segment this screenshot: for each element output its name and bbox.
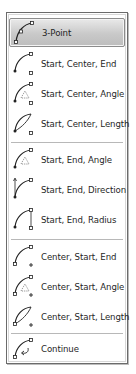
arc-start-center-angle-icon [11, 80, 37, 108]
menu-separator [11, 142, 123, 143]
arc-start-end-angle-icon [11, 146, 37, 174]
arc-center-start-angle-icon [11, 273, 37, 301]
menu-item-label: Start, End, Direction [41, 185, 126, 195]
arc-start-end-direction-icon [11, 176, 37, 204]
menu-item-label: Continue [41, 344, 79, 354]
arc-start-end-radius-icon [11, 206, 37, 234]
menu-item-center-start-length[interactable]: Center, Start, Length [9, 302, 125, 332]
arc-start-center-length-icon [11, 110, 37, 138]
menu-item-label: Start, Center, End [41, 59, 116, 69]
menu-item-label: Start, End, Radius [41, 215, 116, 225]
menu-item-start-center-angle[interactable]: Start, Center, Angle [9, 79, 125, 109]
menu-item-label: Start, End, Angle [41, 155, 112, 165]
menu-item-label: Start, Center, Angle [41, 89, 124, 99]
menu-item-label: Center, Start, End [41, 252, 116, 262]
arc-center-start-end-icon [11, 243, 37, 271]
menu-item-3-point[interactable]: 3-Point [9, 18, 125, 47]
menu-item-start-end-angle[interactable]: Start, End, Angle [9, 145, 125, 175]
menu-item-label: 3-Point [42, 28, 71, 38]
arc-center-start-length-icon [11, 303, 37, 331]
menu-item-start-end-direction[interactable]: Start, End, Direction [9, 175, 125, 205]
menu-item-label: Center, Start, Length [41, 312, 129, 322]
arc-dropdown-menu: 3-Point Start, Center, End Start, Center… [6, 12, 128, 364]
menu-item-center-start-angle[interactable]: Center, Start, Angle [9, 272, 125, 302]
menu-item-label: Center, Start, Angle [41, 282, 124, 292]
menu-item-continue[interactable]: Continue [9, 334, 125, 364]
menu-item-center-start-end[interactable]: Center, Start, End [9, 242, 125, 272]
menu-separator [11, 239, 123, 240]
menu-item-label: Start, Center, Length [41, 119, 129, 129]
menu-item-start-center-end[interactable]: Start, Center, End [9, 49, 125, 79]
arc-start-center-end-icon [11, 50, 37, 78]
menu-item-start-end-radius[interactable]: Start, End, Radius [9, 205, 125, 235]
menu-item-start-center-length[interactable]: Start, Center, Length [9, 109, 125, 139]
arc-continue-icon [11, 335, 37, 363]
arc-3point-icon [12, 19, 38, 47]
